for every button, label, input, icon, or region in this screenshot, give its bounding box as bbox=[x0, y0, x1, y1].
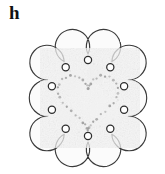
heart-dot bbox=[61, 78, 63, 80]
heart-dot bbox=[74, 75, 76, 77]
heart-dot bbox=[84, 123, 86, 125]
heart-dot bbox=[115, 96, 117, 98]
heart-dot bbox=[117, 87, 119, 89]
petal-hole bbox=[48, 83, 55, 90]
heart-dot bbox=[95, 118, 98, 121]
doily-body bbox=[29, 29, 146, 166]
heart-dot bbox=[108, 75, 110, 77]
heart-dot bbox=[104, 111, 106, 113]
heart-dot bbox=[100, 113, 102, 115]
petal-hole bbox=[84, 132, 91, 139]
heart-dot bbox=[92, 121, 94, 123]
petal-hole bbox=[121, 106, 128, 113]
figure-panel: h bbox=[0, 0, 165, 174]
heart-dot bbox=[70, 109, 73, 112]
heart-dot bbox=[99, 74, 102, 77]
petal-hole bbox=[48, 106, 55, 113]
heart-dot bbox=[89, 83, 92, 86]
petal-hole bbox=[62, 125, 69, 132]
heart-dot bbox=[86, 84, 88, 86]
heart-dot bbox=[78, 77, 80, 79]
heart-dot bbox=[81, 79, 84, 82]
heart-dot bbox=[87, 87, 90, 90]
heart-dot bbox=[108, 105, 111, 108]
heart-dot bbox=[78, 117, 80, 119]
petal-hole bbox=[107, 64, 114, 71]
heart-dot bbox=[115, 82, 117, 84]
petal-hole bbox=[62, 64, 69, 71]
flower-doily-illustration bbox=[0, 0, 165, 174]
heart-dot bbox=[117, 92, 120, 95]
heart-dot bbox=[81, 122, 84, 125]
heart-dot bbox=[104, 76, 106, 78]
petal-hole bbox=[121, 83, 128, 90]
heart-dot bbox=[85, 127, 87, 129]
heart-dot bbox=[112, 102, 114, 104]
heart-dot bbox=[69, 74, 72, 77]
heart-dot bbox=[112, 79, 115, 82]
heart-dot bbox=[74, 114, 76, 116]
heart-dot bbox=[66, 106, 68, 108]
heart-dot bbox=[57, 93, 59, 95]
heart-dot bbox=[95, 77, 97, 79]
heart-dot bbox=[58, 96, 61, 99]
petal-hole bbox=[84, 56, 91, 63]
heart-dot bbox=[58, 83, 61, 86]
heart-dot bbox=[90, 124, 92, 126]
petal-hole bbox=[107, 125, 114, 132]
heart-dot bbox=[65, 77, 67, 79]
heart-dot bbox=[92, 78, 94, 80]
